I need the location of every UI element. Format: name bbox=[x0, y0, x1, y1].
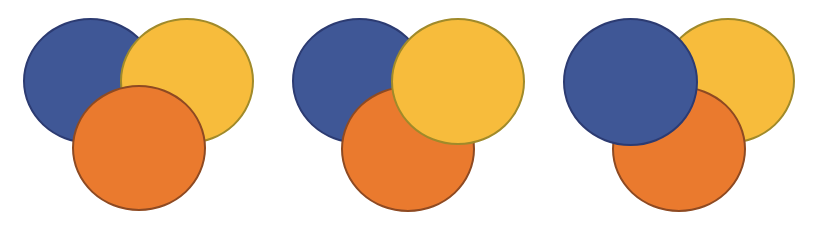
orange-circle bbox=[72, 85, 206, 211]
circle-group-3 bbox=[542, 0, 813, 225]
yellow-circle bbox=[391, 18, 525, 145]
circle-group-1 bbox=[0, 0, 271, 225]
blue-circle bbox=[563, 18, 698, 146]
circle-group-2 bbox=[271, 0, 542, 225]
